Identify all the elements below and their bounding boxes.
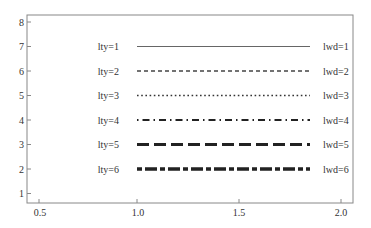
svg-text:lty=4: lty=4 [98,115,119,126]
x-axis-labels: 0.5 1.0 1.5 2.0 [34,207,348,218]
svg-text:lty=1: lty=1 [98,41,119,52]
svg-text:5: 5 [19,90,24,101]
plot-frame [27,15,353,203]
svg-text:lwd=2: lwd=2 [323,66,349,77]
svg-text:0.5: 0.5 [34,207,47,218]
svg-text:2: 2 [19,164,24,175]
svg-text:7: 7 [19,41,24,52]
y-axis-ticks [27,22,31,194]
lwd-labels: lwd=1 lwd=2 lwd=3 lwd=4 lwd=5 lwd=6 [323,41,349,175]
svg-text:6: 6 [19,66,24,77]
svg-text:lwd=5: lwd=5 [323,139,349,150]
svg-text:3: 3 [19,139,24,150]
svg-text:4: 4 [19,115,24,126]
svg-text:lty=6: lty=6 [98,164,119,175]
svg-text:1.0: 1.0 [132,207,145,218]
svg-text:lwd=1: lwd=1 [323,41,349,52]
y-axis-labels: 8 7 6 5 4 3 2 1 [19,17,24,199]
lty-labels: lty=1 lty=2 lty=3 lty=4 lty=5 lty=6 [98,41,119,175]
x-axis-ticks [39,199,341,203]
svg-text:2.0: 2.0 [335,207,348,218]
svg-text:lwd=6: lwd=6 [323,164,349,175]
svg-text:1.5: 1.5 [233,207,246,218]
svg-text:lty=2: lty=2 [98,66,119,77]
svg-text:lty=3: lty=3 [98,90,119,101]
line-types-chart: 8 7 6 5 4 3 2 1 0.5 1.0 1.5 2.0 lty=1 lt… [0,0,371,228]
svg-text:1: 1 [19,188,24,199]
svg-text:lwd=4: lwd=4 [323,115,349,126]
svg-text:lwd=3: lwd=3 [323,90,349,101]
series-lines [137,47,310,170]
svg-text:lty=5: lty=5 [98,139,119,150]
svg-text:8: 8 [19,17,24,28]
